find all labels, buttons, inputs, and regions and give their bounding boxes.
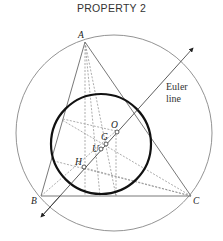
label-line: line: [166, 93, 182, 104]
point-u: [99, 147, 103, 151]
label-a: A: [77, 30, 84, 40]
label-c: C: [193, 196, 200, 206]
point-o: [115, 130, 119, 134]
label-u: U: [92, 144, 100, 154]
euler-line-tail: [41, 196, 60, 217]
point-h: [82, 165, 86, 169]
nine-point-circle: [51, 94, 151, 194]
label-b: B: [31, 196, 37, 206]
label-euler: Euler: [166, 81, 188, 92]
euler-line-diagram: A B C O G U H Euler line: [0, 0, 223, 241]
point-g: [104, 142, 108, 146]
label-h: H: [74, 157, 83, 167]
label-g: G: [101, 132, 108, 142]
dashed-construction-lines: [41, 42, 191, 196]
label-o: O: [111, 120, 118, 130]
